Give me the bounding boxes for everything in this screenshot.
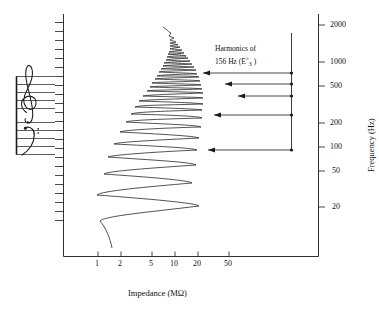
harmonic-arrow-156 [208,148,293,153]
staff-lines [16,77,55,155]
figure-root: 1 2 5 10 20 50 Impedance (MΩ) 2000 1000 … [0,0,379,313]
bass-clef-icon [22,127,39,155]
harmonic-arrow-468 [238,94,293,99]
semitone-tick-group [55,23,64,221]
grand-staff-group [16,77,55,155]
harmonic-annotation-line1: Harmonics of [215,44,256,54]
y-tick-label-50: 50 [332,166,340,176]
treble-clef-icon [22,65,36,123]
y-tick-label-100: 100 [330,142,342,152]
y-tick-label-200: 200 [330,118,342,128]
x-tick-label-20: 20 [193,259,201,269]
y-tick-label-20: 20 [332,202,340,212]
y-tick-label-2000: 2000 [330,20,346,30]
harmonic-arrow-624 [225,82,293,87]
y-tick-label-500: 500 [330,81,342,91]
harmonic-arrow-780 [203,71,293,76]
y-tick-group [319,25,326,207]
harmonic-annotation-line2: 156 Hz (E♭3 ) [215,54,256,68]
y-axis-label: Frequency (Hz) [366,118,377,172]
harmonic-annotation-close: ) [252,57,256,66]
harmonic-annotation: Harmonics of 156 Hz (E♭3 ) [215,44,256,68]
figure-canvas [0,0,379,313]
harmonic-arrow-312 [214,113,293,118]
harmonic-annotation-freq: 156 Hz (E [215,57,246,66]
x-axis-label: Impedance (MΩ) [128,288,187,299]
x-tick-label-50: 50 [224,259,232,269]
x-tick-label-10: 10 [170,259,178,269]
x-tick-label-5: 5 [149,259,153,269]
y-tick-label-1000: 1000 [330,57,346,67]
x-tick-group [98,252,229,257]
impedance-curve [97,27,203,248]
x-tick-label-2: 2 [118,259,122,269]
x-tick-label-1: 1 [95,259,99,269]
